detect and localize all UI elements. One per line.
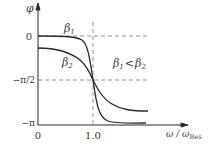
reference-lines <box>38 22 148 125</box>
x-tick-zero: 0 <box>35 130 41 141</box>
curves <box>38 36 148 123</box>
x-axis-label-sub: Res <box>189 133 201 141</box>
x-tick-one: 1.0 <box>85 130 101 141</box>
curve-label-beta1: β1 <box>63 22 75 36</box>
y-tick-pi: −π <box>22 118 36 128</box>
x-axis-label: ω / ωRes <box>166 129 202 141</box>
y-axis-label: φ <box>26 2 34 15</box>
x-axis-arrow-icon <box>181 123 188 127</box>
y-tick-half-pi: −π/2 <box>13 75 35 85</box>
phase-response-diagram: φ 0 −π/2 −π 0 1.0 ω / ωRes β1 β2 β1<β2 <box>0 0 208 145</box>
damping-relation: β1<β2 <box>112 57 146 71</box>
y-axis-arrow-icon <box>36 3 40 10</box>
axes <box>36 3 188 127</box>
x-axis-label-main: ω / ω <box>166 129 190 139</box>
y-tick-zero: 0 <box>26 31 32 42</box>
curve-label-beta2: β2 <box>61 56 73 70</box>
